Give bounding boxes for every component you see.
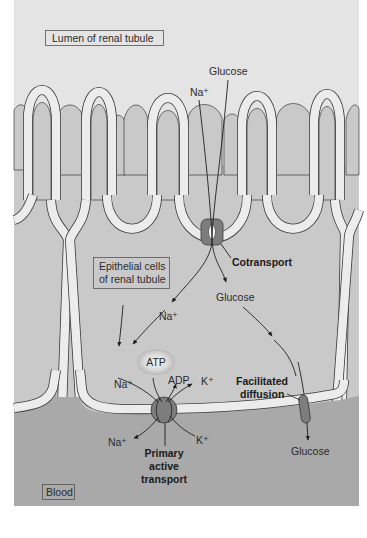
potassium-pump-blood-label: K⁺: [196, 434, 209, 446]
sodium-pump-intracellular-label: Na⁺: [114, 378, 133, 390]
adp-label: ADP: [168, 374, 190, 386]
atp-molecule: ATP: [137, 349, 175, 375]
svg-text:Blood: Blood: [46, 486, 73, 498]
sodium-potassium-pump: [151, 397, 177, 423]
svg-text:of renal tubule: of renal tubule: [99, 273, 166, 285]
glucose-cell-label: Glucose: [216, 291, 255, 303]
potassium-pump-intracellular-label: K⁺: [201, 375, 214, 387]
epithelial-label-box: Epithelial cells of renal tubule: [94, 258, 170, 289]
cotransport-label: Cotransport: [232, 256, 293, 268]
sodium-cell-label: Na⁺: [159, 310, 178, 322]
primary-active-transport-label-3: transport: [141, 473, 188, 485]
primary-active-transport-label-2: active: [149, 460, 179, 472]
sodium-pump-blood-label: Na⁺: [108, 436, 127, 448]
renal-glucose-reabsorption-diagram: ATP Lumen of renal tubule Epithelial cel…: [0, 0, 367, 538]
primary-active-transport-label-1: Primary: [144, 447, 183, 459]
glucose-blood-label: Glucose: [291, 445, 330, 457]
svg-text:Epithelial cells: Epithelial cells: [99, 260, 166, 272]
facilitated-diffusion-label-1: Facilitated: [236, 375, 288, 387]
blood-label-box: Blood: [43, 485, 75, 500]
facilitated-diffusion-label-2: diffusion: [240, 388, 284, 400]
lumen-label-box: Lumen of renal tubule: [46, 31, 164, 46]
glucose-lumen-label: Glucose: [209, 65, 248, 77]
atp-label: ATP: [146, 356, 166, 368]
sodium-lumen-label: Na⁺: [190, 86, 209, 98]
svg-text:Lumen of renal tubule: Lumen of renal tubule: [52, 32, 154, 44]
